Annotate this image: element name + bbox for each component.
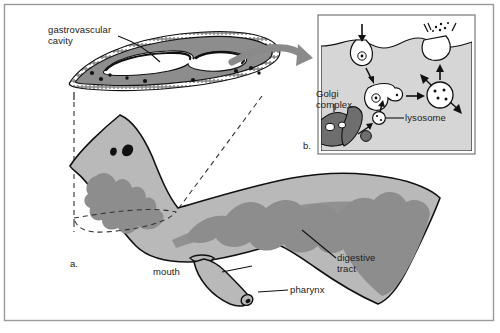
endocytic-vesicle xyxy=(350,40,372,65)
label-gastrovascular-cavity-line1: gastrovascular xyxy=(48,24,111,35)
lysosome-vesicle xyxy=(373,112,386,125)
inset-group xyxy=(318,15,475,154)
figure-planarian-digestion: gastrovascular cavity Golgi complex lyso… xyxy=(0,0,500,333)
panel-marker-b: b. xyxy=(303,140,311,151)
figure-artwork xyxy=(0,0,500,333)
exocytic-vesicle xyxy=(422,36,450,60)
label-golgi-complex-line1: Golgi xyxy=(316,88,339,99)
panel-marker-a: a. xyxy=(70,258,78,269)
leader-mouth xyxy=(222,266,252,272)
golgi-vesicle-1 xyxy=(326,123,335,130)
label-pharynx: pharynx xyxy=(290,284,325,295)
cross-section-group xyxy=(69,32,280,91)
golgi-budding-vesicle xyxy=(361,131,372,142)
label-gastrovascular-cavity-line2: cavity xyxy=(48,35,73,46)
label-digestive-tract-line2: tract xyxy=(337,263,356,274)
label-lysosome: lysosome xyxy=(405,112,446,123)
leader-pharynx xyxy=(258,290,288,292)
label-digestive-tract-line1: digestive xyxy=(337,252,375,263)
label-mouth: mouth xyxy=(153,266,180,277)
label-golgi-complex-line2: complex xyxy=(316,99,352,110)
golgi-vesicle-2 xyxy=(338,122,345,128)
